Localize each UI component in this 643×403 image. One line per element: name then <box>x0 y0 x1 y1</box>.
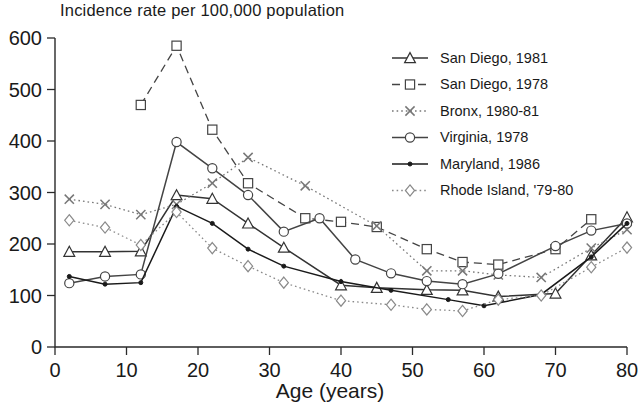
data-point-diamond <box>136 239 145 250</box>
data-point-diamond <box>100 222 109 233</box>
circle-marker <box>351 255 360 264</box>
square-marker <box>243 179 252 188</box>
dot-marker <box>408 162 412 166</box>
data-point-dot <box>589 255 593 259</box>
data-point-cross <box>301 181 310 190</box>
data-point-square <box>243 179 252 188</box>
legend-item-3[interactable]: Virginia, 1978 <box>392 129 528 145</box>
legend-item-4[interactable]: Maryland, 1986 <box>392 156 540 172</box>
dot-marker <box>210 221 214 225</box>
chart-figure: Incidence rate per 100,000 population 01… <box>0 0 643 403</box>
diamond-marker <box>136 239 145 250</box>
dot-marker <box>246 247 250 251</box>
data-point-circle <box>351 255 360 264</box>
data-point-square <box>405 80 414 89</box>
circle-marker <box>208 164 217 173</box>
series-4 <box>67 204 629 307</box>
data-point-diamond <box>336 295 345 306</box>
diamond-marker <box>65 215 74 226</box>
data-point-dot <box>282 264 286 268</box>
square-marker <box>587 215 596 224</box>
x-axis: 01020304050607080 <box>49 347 638 381</box>
legend-item-5[interactable]: Rhode Island, '79-80 <box>392 182 573 198</box>
data-point-square <box>336 217 345 226</box>
series-line <box>69 157 627 277</box>
data-point-circle <box>405 133 414 142</box>
data-point-circle <box>458 280 467 289</box>
data-point-diamond <box>622 242 631 253</box>
data-point-circle <box>100 272 109 281</box>
legend-item-1[interactable]: San Diego, 1978 <box>392 76 548 92</box>
circle-marker <box>65 279 74 288</box>
data-point-square <box>136 100 145 109</box>
diamond-marker <box>458 305 467 316</box>
data-point-circle <box>386 269 395 278</box>
data-point-square <box>458 257 467 266</box>
incidence-line-chart: Incidence rate per 100,000 population 01… <box>0 0 643 403</box>
legend-item-2[interactable]: Bronx, 1980-81 <box>392 103 539 119</box>
y-axis: 0100200300400500600 <box>9 27 55 358</box>
data-point-triangle <box>278 242 289 252</box>
square-marker <box>172 41 181 50</box>
circle-marker <box>494 269 503 278</box>
data-point-diamond <box>587 262 596 273</box>
legend-label: Rhode Island, '79-80 <box>440 182 573 198</box>
data-point-dot <box>408 162 412 166</box>
data-point-circle <box>494 269 503 278</box>
series-line <box>69 206 627 305</box>
data-point-triangle <box>171 190 182 200</box>
dot-marker <box>103 282 107 286</box>
dot-marker <box>67 274 71 278</box>
circle-marker <box>279 227 288 236</box>
legend-item-0[interactable]: San Diego, 1981 <box>392 50 548 66</box>
y-tick-label: 100 <box>9 285 42 307</box>
triangle-marker <box>243 218 254 228</box>
data-point-cross <box>422 266 431 275</box>
data-point-dot <box>139 281 143 285</box>
legend-label: Virginia, 1978 <box>440 129 528 145</box>
data-point-circle <box>243 190 252 199</box>
x-tick-label: 50 <box>401 359 423 381</box>
circle-marker <box>551 241 560 250</box>
circle-marker <box>587 226 596 235</box>
data-point-circle <box>551 241 560 250</box>
square-marker <box>301 214 310 223</box>
diamond-marker <box>100 222 109 233</box>
data-point-square <box>494 260 503 269</box>
y-tick-label: 600 <box>9 27 42 49</box>
data-point-square <box>587 215 596 224</box>
data-point-triangle <box>243 218 254 228</box>
data-point-diamond <box>422 304 431 315</box>
data-point-dot <box>625 221 629 225</box>
square-marker <box>336 217 345 226</box>
chart-legend: San Diego, 1981San Diego, 1978Bronx, 198… <box>392 50 573 199</box>
square-marker <box>136 100 145 109</box>
data-point-diamond <box>279 277 288 288</box>
x-tick-label: 20 <box>187 359 209 381</box>
data-point-dot <box>210 221 214 225</box>
data-point-dot <box>446 298 450 302</box>
dot-marker <box>446 298 450 302</box>
diamond-marker <box>622 242 631 253</box>
y-tick-label: 400 <box>9 130 42 152</box>
data-point-cross <box>65 195 74 204</box>
diamond-marker <box>336 295 345 306</box>
data-point-dot <box>246 247 250 251</box>
legend-label: San Diego, 1981 <box>440 50 548 66</box>
x-tick-label: 0 <box>49 359 60 381</box>
circle-marker <box>315 214 324 223</box>
data-point-cross <box>208 179 217 188</box>
data-point-circle <box>315 214 324 223</box>
diamond-marker <box>422 304 431 315</box>
data-point-circle <box>65 279 74 288</box>
data-point-circle <box>279 227 288 236</box>
chart-title: Incidence rate per 100,000 population <box>60 1 344 19</box>
square-marker <box>458 257 467 266</box>
dot-marker <box>282 264 286 268</box>
square-marker <box>405 80 414 89</box>
circle-marker <box>405 133 414 142</box>
x-tick-label: 80 <box>616 359 638 381</box>
x-tick-label: 70 <box>544 359 566 381</box>
data-point-diamond <box>458 305 467 316</box>
dot-marker <box>389 288 393 292</box>
